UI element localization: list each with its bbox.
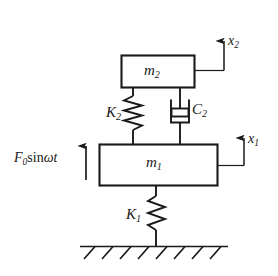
- spring-k2: [124, 88, 142, 145]
- label-mass-m2-symbol: m: [144, 62, 155, 78]
- label-mass-m1: m1: [146, 155, 162, 172]
- ground-hatching: [80, 247, 228, 260]
- label-force-symbol: F: [14, 150, 23, 165]
- label-force-expression: F0sinωt: [14, 151, 57, 167]
- label-force-function: sin: [27, 150, 43, 165]
- label-mass-m2: m2: [144, 63, 160, 80]
- label-displacement-x1: x1: [248, 132, 259, 148]
- label-spring-k2: K2: [106, 105, 121, 122]
- label-mass-m1-subscript: 1: [157, 161, 162, 172]
- label-spring-k2-subscript: 2: [116, 111, 121, 122]
- label-mass-m1-symbol: m: [146, 154, 157, 170]
- label-spring-k1-symbol: K: [126, 206, 136, 222]
- label-mass-m2-subscript: 2: [155, 69, 160, 80]
- label-displacement-x1-subscript: 1: [254, 138, 259, 148]
- damper-c2: [171, 88, 189, 145]
- displacement-arrow-x2: [195, 41, 225, 71]
- displacement-arrow-x1: [218, 138, 245, 166]
- label-damper-c2-symbol: C: [192, 101, 202, 117]
- label-damper-c2-subscript: 2: [202, 108, 207, 119]
- label-force-argument: ωt: [44, 150, 58, 165]
- label-damper-c2: C2: [192, 102, 207, 119]
- label-spring-k2-symbol: K: [106, 104, 116, 120]
- label-spring-k1: K1: [126, 207, 141, 224]
- label-displacement-x2: x2: [228, 34, 239, 50]
- label-displacement-x2-subscript: 2: [234, 40, 239, 50]
- vibration-system-diagram: m2 m1 K2 C2 K1 x2 x1 F0sinωt: [0, 0, 278, 276]
- label-spring-k1-subscript: 1: [136, 213, 141, 224]
- spring-k1: [148, 186, 165, 247]
